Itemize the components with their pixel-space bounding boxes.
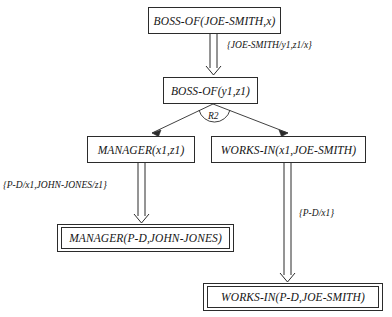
- node-label: WORKS-IN(x1,JOE-SMITH): [221, 144, 356, 156]
- diagram-canvas: BOSS-OF(JOE-SMITH,x) {JOE-SMITH/y1,z1/x}…: [0, 0, 392, 317]
- arrow-n4-to-n6: [280, 163, 295, 282]
- node-label: MANAGER(P-D,JOHN-JONES): [61, 227, 230, 249]
- substitution-label-3: {P-D/x1}: [299, 208, 334, 218]
- arrow-n2-to-n3: [152, 104, 213, 137]
- node-boss-of-y1-z1[interactable]: BOSS-OF(y1,z1): [163, 77, 258, 104]
- arrow-n3-to-n5: [134, 163, 149, 223]
- rule-label-r2: R2: [208, 111, 219, 121]
- arrow-n2-to-n4: [213, 104, 288, 137]
- substitution-label-1: {JOE-SMITH/y1,z1/x}: [227, 40, 312, 50]
- node-label: BOSS-OF(y1,z1): [171, 85, 250, 97]
- node-boss-of-joe-smith-x[interactable]: BOSS-OF(JOE-SMITH,x): [148, 7, 281, 34]
- node-manager-pd-john-jones[interactable]: MANAGER(P-D,JOHN-JONES): [57, 224, 234, 252]
- substitution-label-2: {P-D/x1,JOHN-JONES/z1}: [3, 180, 107, 190]
- node-label: MANAGER(x1,z1): [98, 144, 185, 156]
- node-works-in-pd-joe-smith[interactable]: WORKS-IN(P-D,JOE-SMITH): [203, 283, 383, 311]
- node-manager-x1-z1[interactable]: MANAGER(x1,z1): [87, 136, 195, 163]
- node-label: BOSS-OF(JOE-SMITH,x): [154, 15, 276, 27]
- node-works-in-x1-joe-smith[interactable]: WORKS-IN(x1,JOE-SMITH): [211, 136, 366, 163]
- node-label: WORKS-IN(P-D,JOE-SMITH): [207, 286, 379, 308]
- arrow-n1-to-n2: [206, 34, 221, 75]
